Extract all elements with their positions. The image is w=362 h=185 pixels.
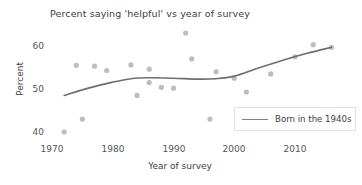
scatter-point: [183, 30, 188, 35]
scatter-point: [104, 68, 109, 73]
scatter-point: [147, 67, 152, 72]
scatter-point: [213, 69, 218, 74]
scatter-point: [159, 85, 164, 90]
scatter-point: [92, 64, 97, 69]
scatter-point: [128, 62, 133, 67]
legend-line-swatch: [242, 119, 268, 120]
scatter-point: [171, 86, 176, 91]
scatter-point: [268, 71, 273, 76]
scatter-point: [147, 80, 152, 85]
scatter-point: [244, 89, 249, 94]
legend: Born in the 1940s: [234, 107, 356, 131]
legend-label: Born in the 1940s: [275, 114, 351, 124]
scatter-point: [207, 117, 212, 122]
scatter-point: [80, 117, 85, 122]
scatter-point: [189, 56, 194, 61]
scatter-point: [134, 93, 139, 98]
chart-container: Percent saying 'helpful' vs year of surv…: [0, 0, 362, 185]
scatter-point: [62, 129, 67, 134]
scatter-point: [74, 63, 79, 68]
scatter-point: [311, 42, 316, 47]
plot-area: [0, 0, 362, 185]
